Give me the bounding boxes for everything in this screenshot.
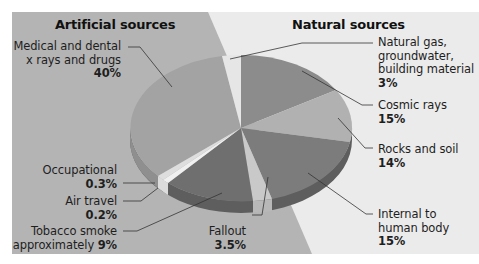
heading-artificial-sources: Artificial sources <box>55 17 175 32</box>
label-cosmic-line1: Cosmic rays <box>378 99 447 113</box>
chart-figure: Artificial sources Natural sources Medic… <box>0 0 479 264</box>
label-tobacco-prefix: approximately <box>13 238 98 252</box>
label-air-travel: Air travel 0.2% <box>65 195 117 222</box>
label-natural-gas-line2: groundwater, <box>378 50 474 64</box>
label-rocks-pct: 14% <box>378 157 458 171</box>
label-natural-gas: Natural gas, groundwater, building mater… <box>378 36 474 90</box>
label-cosmic-rays: Cosmic rays 15% <box>378 99 447 126</box>
label-occupational-line1: Occupational <box>43 164 117 178</box>
label-fallout: Fallout 3.5% <box>209 225 246 252</box>
label-medical: Medical and dental x rays and drugs 40% <box>13 40 121 81</box>
label-natural-gas-line1: Natural gas, <box>378 36 474 50</box>
label-natural-gas-pct: 3% <box>378 77 474 91</box>
label-internal: Internal to human body 15% <box>378 208 449 249</box>
label-internal-line1: Internal to <box>378 208 449 222</box>
label-air-line1: Air travel <box>65 195 117 209</box>
label-internal-pct: 15% <box>378 235 449 249</box>
label-medical-line1: Medical and dental <box>13 40 121 54</box>
label-tobacco: Tobacco smoke approximately 9% <box>13 225 117 252</box>
label-occupational-pct: 0.3% <box>43 178 117 192</box>
label-tobacco-line1: Tobacco smoke <box>13 225 117 239</box>
label-fallout-line1: Fallout <box>209 225 246 239</box>
label-medical-line2: x rays and drugs <box>13 54 121 68</box>
label-fallout-pct: 3.5% <box>209 239 246 253</box>
label-tobacco-pct: 9% <box>98 238 117 252</box>
label-rocks-soil: Rocks and soil 14% <box>378 143 458 170</box>
label-cosmic-pct: 15% <box>378 113 447 127</box>
label-rocks-line1: Rocks and soil <box>378 143 458 157</box>
heading-natural-sources: Natural sources <box>292 17 405 32</box>
label-occupational: Occupational 0.3% <box>43 164 117 191</box>
label-natural-gas-line3: building material <box>378 63 474 77</box>
label-air-pct: 0.2% <box>65 209 117 223</box>
label-internal-line2: human body <box>378 222 449 236</box>
label-medical-pct: 40% <box>13 67 121 81</box>
